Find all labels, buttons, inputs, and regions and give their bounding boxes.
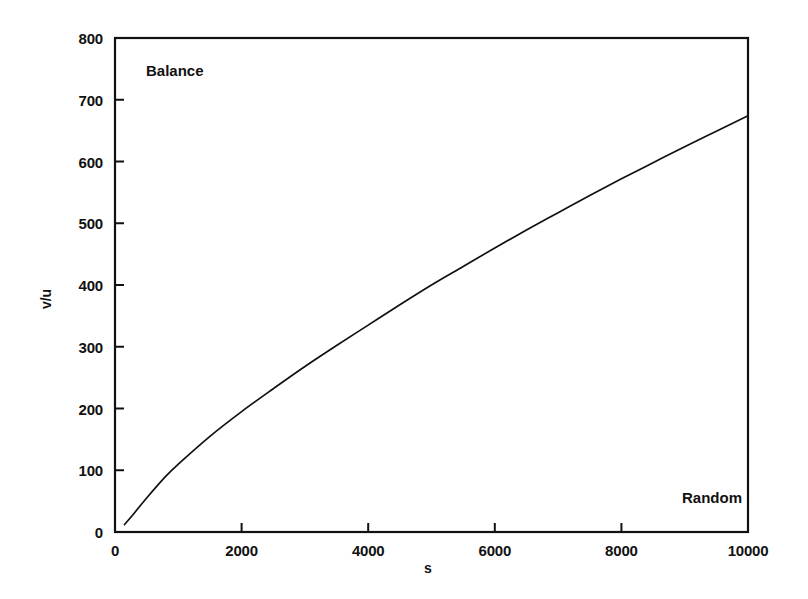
x-tick-label: 2000 bbox=[225, 542, 258, 559]
tick-marks bbox=[115, 100, 621, 532]
y-tick-label: 500 bbox=[55, 215, 103, 232]
y-tick-label: 100 bbox=[55, 462, 103, 479]
data-series-group bbox=[125, 116, 749, 525]
line-series-path bbox=[125, 116, 749, 525]
y-tick-label: 300 bbox=[55, 338, 103, 355]
x-tick-label: 4000 bbox=[352, 542, 385, 559]
x-tick-label: 6000 bbox=[479, 542, 512, 559]
y-tick-label: 600 bbox=[55, 153, 103, 170]
y-axis-title: v/u bbox=[38, 289, 54, 309]
y-tick-label: 700 bbox=[55, 91, 103, 108]
y-tick-label: 0 bbox=[55, 524, 103, 541]
y-tick-label: 800 bbox=[55, 30, 103, 47]
x-axis-title: s bbox=[424, 560, 432, 576]
x-tick-label: 10000 bbox=[728, 542, 769, 559]
plot-canvas bbox=[0, 0, 808, 599]
annotation-random: Random bbox=[682, 489, 742, 506]
y-tick-label: 200 bbox=[55, 400, 103, 417]
chart-figure: 0100200300400500600700800 02000400060008… bbox=[0, 0, 808, 599]
y-tick-label: 400 bbox=[55, 277, 103, 294]
x-tick-label: 0 bbox=[111, 542, 119, 559]
x-tick-label: 8000 bbox=[605, 542, 638, 559]
annotation-balance: Balance bbox=[146, 62, 204, 79]
